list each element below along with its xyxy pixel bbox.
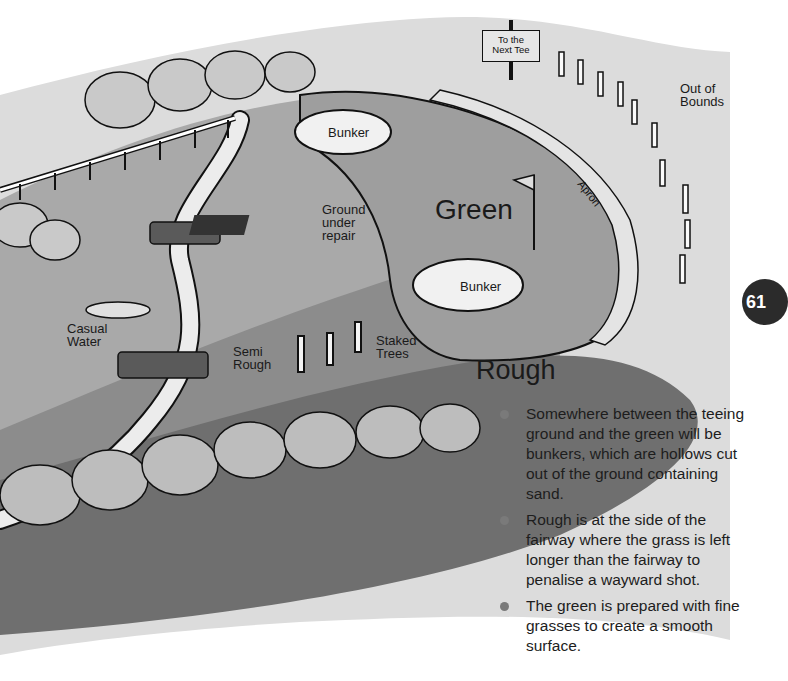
label-staked-trees: Staked Trees xyxy=(376,334,416,360)
repair-mesh xyxy=(189,215,249,235)
note-text: Somewhere between the teeing ground and … xyxy=(526,405,744,502)
label-out-of-bounds: Out of Bounds xyxy=(680,82,724,108)
casual-water xyxy=(86,302,150,318)
label-out-of-bounds-line2: Bounds xyxy=(680,95,724,108)
sign-line-2: Next Tee xyxy=(483,45,539,55)
label-ground-under-repair: Ground under repair xyxy=(322,203,365,242)
label-rough-heading: Rough xyxy=(476,357,556,384)
note-item: The green is prepared with fine grasses … xyxy=(498,596,753,656)
label-bunker-top: Bunker xyxy=(328,126,369,139)
bridge-lower xyxy=(118,352,208,378)
note-item: Somewhere between the teeing ground and … xyxy=(498,404,753,504)
page-number-badge: 61 xyxy=(742,279,788,325)
label-casual-line2: Water xyxy=(67,335,107,348)
label-semi-line2: Rough xyxy=(233,358,271,371)
next-tee-sign: To the Next Tee xyxy=(482,30,540,62)
bullet-icon xyxy=(500,602,509,611)
notes-list: Somewhere between the teeing ground and … xyxy=(498,404,753,662)
label-semi-rough: Semi Rough xyxy=(233,345,271,371)
note-text: Rough is at the side of the fairway wher… xyxy=(526,511,730,588)
label-ground-line3: repair xyxy=(322,229,365,242)
label-green: Green xyxy=(435,196,513,224)
note-text: The green is prepared with fine grasses … xyxy=(526,597,740,654)
label-staked-line2: Trees xyxy=(376,347,416,360)
bullet-icon xyxy=(500,516,509,525)
note-item: Rough is at the side of the fairway wher… xyxy=(498,510,753,590)
label-casual-water: Casual Water xyxy=(67,322,107,348)
bullet-icon xyxy=(500,410,509,419)
label-bunker-bottom: Bunker xyxy=(460,280,501,293)
